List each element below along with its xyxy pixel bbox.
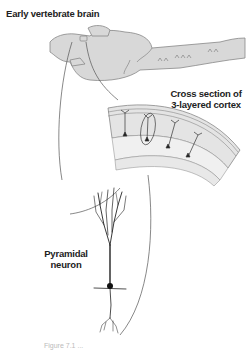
label-cortex-line2: 3-layered cortex bbox=[164, 99, 248, 110]
label-early-vertebrate-brain: Early vertebrate brain bbox=[6, 8, 99, 19]
figure-caption: Figure 7.1 ... bbox=[44, 342, 83, 349]
diagram-canvas bbox=[0, 0, 249, 351]
label-cortex: Cross section of 3-layered cortex bbox=[164, 88, 248, 110]
pyramidal-neuron bbox=[94, 188, 126, 333]
label-neuron-line1: Pyramidal bbox=[40, 248, 92, 259]
cortex-cross-section bbox=[108, 105, 240, 186]
label-cortex-line1: Cross section of bbox=[164, 88, 248, 99]
label-pyramidal-neuron: Pyramidal neuron bbox=[40, 248, 92, 270]
connector-lines bbox=[59, 42, 151, 335]
neuron-soma bbox=[107, 283, 113, 289]
label-neuron-line2: neuron bbox=[40, 259, 92, 270]
